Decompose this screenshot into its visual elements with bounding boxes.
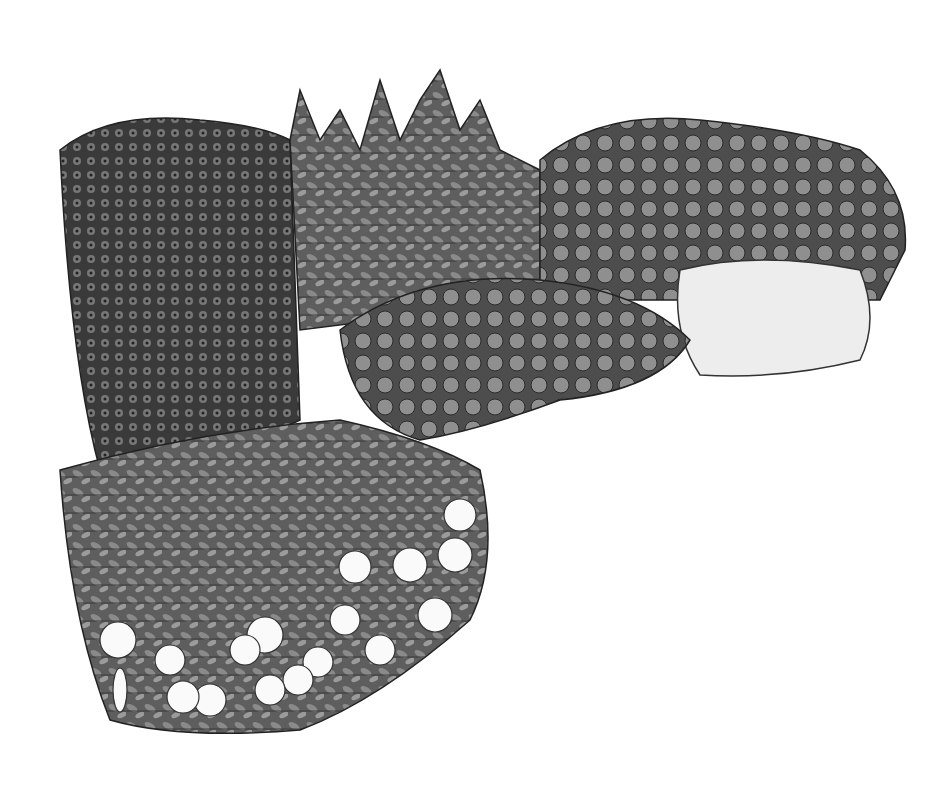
garden-illustration — [0, 0, 938, 802]
daisy-cluster — [60, 118, 300, 470]
broad-leaf-mound — [340, 279, 690, 440]
white-star-flowers — [678, 260, 871, 376]
